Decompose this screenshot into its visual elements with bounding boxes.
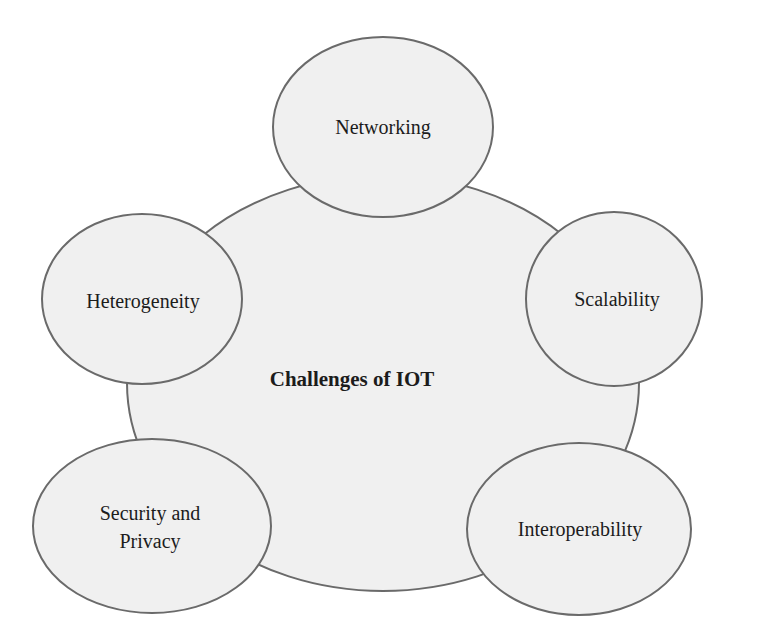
node-label-heterogeneity: Heterogeneity (86, 289, 199, 313)
node-label-scalability: Scalability (574, 287, 660, 311)
center-label: Challenges of IOT (270, 367, 435, 391)
node-label-networking: Networking (335, 115, 431, 139)
node-label-security-and-privacy: Security and Privacy (70, 499, 230, 555)
node-label-interoperability: Interoperability (518, 517, 642, 541)
